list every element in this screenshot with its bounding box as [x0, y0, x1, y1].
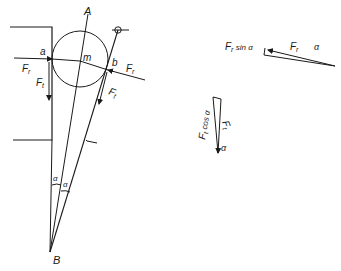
label-Ft-left: Ft — [36, 77, 45, 89]
label-alpha-1: α — [53, 174, 58, 183]
label-Ft-bottom: Ft — [219, 119, 233, 132]
force-diagram: A B m a b Fr Ft Fr Ft α α Fr sin α Fr α … — [0, 0, 341, 271]
label-m: m — [83, 52, 91, 63]
force-triangle-Ft: Ft cos α Ft α — [196, 97, 233, 153]
left-wall — [10, 27, 52, 140]
line-A-B — [50, 14, 88, 252]
label-B: B — [53, 254, 60, 266]
label-b: b — [112, 57, 118, 68]
label-Fr-left: Fr — [22, 63, 31, 75]
force-triangle-Fr: Fr sin α Fr α — [225, 41, 335, 66]
label-A: A — [83, 5, 91, 17]
force-Fr-left-arrow — [14, 58, 52, 59]
label-Fr-top: Fr — [290, 41, 299, 53]
label-a: a — [40, 46, 46, 57]
label-Ft-cos: Ft cos α — [196, 109, 213, 141]
angle-arc-1 — [52, 184, 61, 185]
vertical-line-to-B — [50, 140, 52, 252]
label-Ft-right: Ft — [107, 86, 120, 100]
label-Fr-sin: Fr sin α — [225, 41, 253, 53]
label-Fr-right: Fr — [126, 63, 135, 75]
lower-tick — [86, 140, 97, 143]
label-alpha-2: α — [63, 180, 68, 189]
label-alpha-top: α — [314, 42, 320, 52]
label-alpha-bottom: α — [221, 143, 227, 153]
roller-circle — [52, 31, 108, 87]
